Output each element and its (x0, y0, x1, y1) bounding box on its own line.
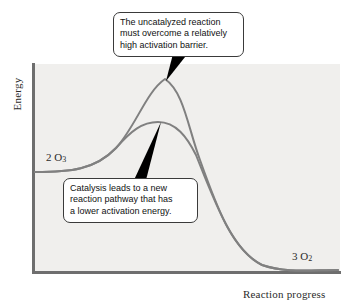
reactant-species-label: 2 O3 (46, 151, 66, 164)
callout-uncatalyzed: The uncatalyzed reaction must overcome a… (113, 12, 244, 57)
product-formula: O (300, 250, 308, 262)
plot-area (35, 64, 340, 271)
callout-catalyzed-line-1: Catalysis leads to a new (70, 183, 191, 194)
callout-uncatalyzed-line-1: The uncatalyzed reaction (120, 17, 237, 28)
reactant-formula: O (54, 151, 62, 163)
reactant-subscript: 3 (62, 155, 66, 164)
callout-catalyzed: Catalysis leads to a new reaction pathwa… (63, 178, 198, 223)
y-axis-title: Energy (11, 64, 23, 124)
callout-catalyzed-line-3: a lower activation energy. (70, 206, 191, 217)
product-species-label: 3 O2 (292, 250, 312, 263)
callout-uncatalyzed-line-3: high activation barrier. (120, 40, 237, 51)
y-axis-line (32, 63, 35, 274)
x-axis-title: Reaction progress (243, 288, 326, 300)
product-subscript: 2 (308, 254, 312, 263)
callout-uncatalyzed-line-2: must overcome a relatively (120, 28, 237, 39)
x-axis-line (32, 271, 341, 274)
figure-root: Energy Reaction progress 2 O3 3 O2 The u… (0, 0, 355, 307)
callout-catalyzed-line-2: reaction pathway that has (70, 194, 191, 205)
